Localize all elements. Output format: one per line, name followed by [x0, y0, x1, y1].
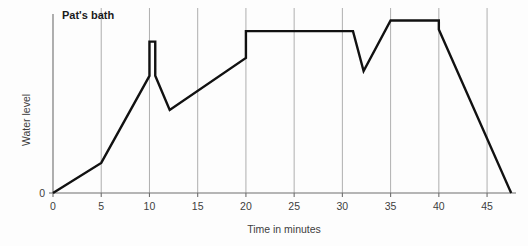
- y-axis-title: Water level: [20, 94, 32, 146]
- x-tick-label: 30: [337, 200, 349, 212]
- chart-title: Pat's bath: [62, 9, 114, 21]
- chart-container: 051015202530354045 0 Pat's bath Time in …: [0, 0, 528, 246]
- line-chart: 051015202530354045 0 Pat's bath Time in …: [0, 0, 528, 246]
- x-tick-label: 35: [385, 200, 397, 212]
- series-group: [53, 21, 511, 193]
- x-tick-label: 0: [50, 200, 56, 212]
- x-tick-marks-group: [53, 193, 487, 197]
- axes-group: [53, 14, 516, 193]
- x-tick-label: 5: [98, 200, 104, 212]
- x-tick-label: 15: [192, 200, 204, 212]
- x-tick-label: 25: [288, 200, 300, 212]
- x-axis-title: Time in minutes: [247, 223, 321, 235]
- y-tick-labels-group: 0: [39, 187, 45, 199]
- y-tick-label: 0: [39, 187, 45, 199]
- x-tick-label: 10: [144, 200, 156, 212]
- x-tick-label: 45: [481, 200, 493, 212]
- series-line-water-level: [53, 21, 511, 193]
- x-tick-label: 40: [433, 200, 445, 212]
- x-tick-labels-group: 051015202530354045: [50, 200, 493, 212]
- gridlines-group: [101, 8, 487, 193]
- x-tick-label: 20: [240, 200, 252, 212]
